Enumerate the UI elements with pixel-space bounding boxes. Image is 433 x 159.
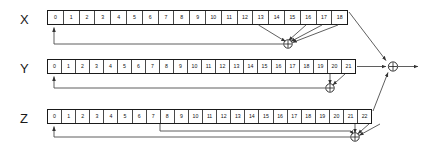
- z-feedback-line: [54, 127, 351, 138]
- lfsr-diagram: X Y Z 0123456789101112131415161718 01234…: [0, 0, 433, 159]
- x-tap-lines: [259, 25, 339, 43]
- x-output-line: [349, 12, 386, 61]
- wiring-layer: [0, 0, 433, 159]
- keystream-output-xor: [388, 62, 397, 71]
- y-feedback-line: [54, 77, 326, 89]
- z-tap-lines: [160, 124, 380, 135]
- y-feedback-xor: [326, 84, 334, 92]
- z-feedback-xor: [351, 133, 359, 141]
- z-output-line: [373, 73, 388, 112]
- y-tap-lines: [330, 74, 345, 85]
- x-feedback-line: [54, 28, 284, 45]
- x-feedback-xor: [284, 40, 292, 48]
